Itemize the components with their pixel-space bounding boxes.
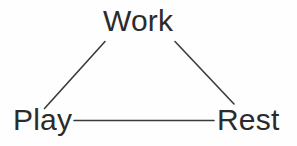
node-label-play: Play bbox=[13, 103, 72, 137]
node-label-work: Work bbox=[103, 4, 173, 38]
triangle-diagram: Work Play Rest bbox=[0, 0, 297, 146]
edge-work-play bbox=[45, 42, 106, 109]
node-label-rest: Rest bbox=[217, 103, 280, 137]
edge-work-rest bbox=[175, 42, 234, 105]
